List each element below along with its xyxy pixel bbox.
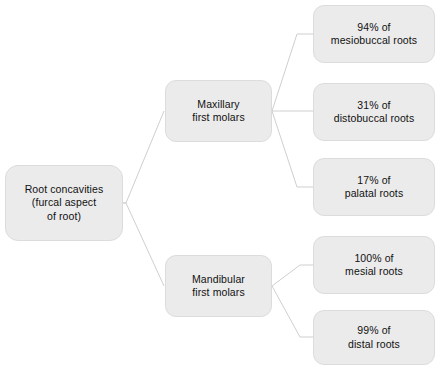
node-root-line-1: Root concavities [10, 183, 118, 197]
node-maxillary-text: Maxillary first molars [166, 98, 271, 125]
node-leaf-palatal-text: 17% of palatal roots [314, 174, 434, 201]
node-maxillary-line-2: first molars [170, 111, 267, 125]
node-leaf-mesiobuccal-label: mesiobuccal roots [318, 34, 430, 48]
node-leaf-mesiobuccal-text: 94% of mesiobuccal roots [314, 21, 434, 48]
node-leaf-distal-percent: 99% of [318, 324, 430, 338]
node-leaf-mesial-text: 100% of mesial roots [314, 252, 434, 279]
node-leaf-palatal-label: palatal roots [318, 187, 430, 201]
node-root-line-2: (furcal aspect [10, 196, 118, 210]
node-leaf-distal-label: distal roots [318, 338, 430, 352]
node-leaf-distobuccal-text: 31% of distobuccal roots [314, 99, 434, 126]
node-leaf-mesial-label: mesial roots [318, 265, 430, 279]
node-leaf-palatal-percent: 17% of [318, 174, 430, 188]
node-leaf-palatal[interactable]: 17% of palatal roots [313, 158, 435, 216]
node-root-concavities[interactable]: Root concavities (furcal aspect of root) [5, 165, 123, 241]
connector-maxillary-to-mesiobuccal [272, 34, 313, 111]
node-leaf-distal[interactable]: 99% of distal roots [313, 310, 435, 365]
node-leaf-mesial-percent: 100% of [318, 252, 430, 266]
node-root-text: Root concavities (furcal aspect of root) [6, 183, 122, 224]
node-mandibular-first-molars[interactable]: Mandibular first molars [165, 255, 272, 317]
connector-maxillary-to-palatal [272, 111, 313, 187]
connector-root-to-mandibular [123, 203, 164, 286]
node-leaf-mesial[interactable]: 100% of mesial roots [313, 236, 435, 294]
root-concavities-diagram: Root concavities (furcal aspect of root)… [0, 0, 440, 367]
node-mandibular-text: Mandibular first molars [166, 273, 271, 300]
node-leaf-distal-text: 99% of distal roots [314, 324, 434, 351]
node-root-line-3: of root) [10, 210, 118, 224]
node-maxillary-first-molars[interactable]: Maxillary first molars [165, 80, 272, 142]
node-maxillary-line-1: Maxillary [170, 98, 267, 112]
node-leaf-distobuccal-percent: 31% of [318, 99, 430, 113]
node-leaf-mesiobuccal[interactable]: 94% of mesiobuccal roots [313, 5, 435, 63]
node-mandibular-line-2: first molars [170, 286, 267, 300]
node-leaf-distobuccal-label: distobuccal roots [318, 112, 430, 126]
connector-root-to-maxillary [123, 111, 164, 203]
node-mandibular-line-1: Mandibular [170, 273, 267, 287]
connector-mandibular-to-mesial [272, 265, 313, 286]
node-leaf-distobuccal[interactable]: 31% of distobuccal roots [313, 83, 435, 141]
node-leaf-mesiobuccal-percent: 94% of [318, 21, 430, 35]
connector-mandibular-to-distal [272, 286, 313, 337]
